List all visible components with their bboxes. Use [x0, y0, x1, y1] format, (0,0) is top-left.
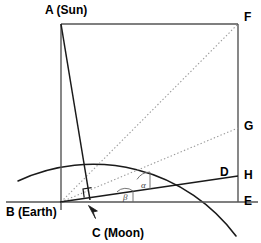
right-angle-marker-at-C — [83, 188, 92, 198]
dotted-line-B-F — [61, 24, 238, 202]
point-label-E: E — [244, 195, 252, 207]
point-label-D: D — [220, 166, 229, 178]
angle-label-beta: β — [123, 193, 127, 202]
point-label-A-sun: A (Sun) — [45, 4, 87, 16]
point-label-F: F — [244, 11, 251, 23]
point-label-B-earth: B (Earth) — [6, 206, 57, 218]
point-label-H: H — [244, 169, 253, 181]
angle-label-alpha: α — [141, 181, 146, 190]
moon-pointer-arrow-icon — [89, 206, 98, 219]
geometry-diagram: A (Sun) B (Earth) C (Moon) D E F G H α β — [0, 0, 261, 243]
point-label-C-moon: C (Moon) — [92, 227, 144, 239]
point-label-G: G — [244, 120, 253, 132]
solid-line-A-C — [61, 24, 90, 200]
